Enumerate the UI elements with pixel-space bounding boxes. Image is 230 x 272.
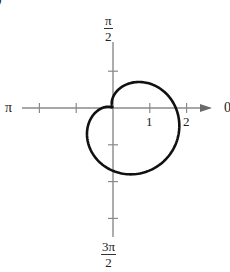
fraction-denominator: 2 xyxy=(105,255,112,269)
cardioid-curve xyxy=(87,82,179,174)
axis-arrow-icon xyxy=(200,104,212,112)
corner-fragment-label: ) xyxy=(0,0,2,6)
angle-label-pi: π xyxy=(5,101,12,115)
fraction-numerator: 3π xyxy=(101,240,116,254)
angle-label-3pi-over-2: 3π 2 xyxy=(101,240,116,269)
fraction-denominator: 2 xyxy=(105,29,112,43)
polar-plot-svg xyxy=(0,0,230,272)
fraction-numerator: π xyxy=(104,14,113,28)
angle-label-zero: 0 xyxy=(224,101,230,115)
tick-label-1: 1 xyxy=(146,115,153,128)
tick-label-2: 2 xyxy=(183,115,190,128)
angle-label-pi-over-2: π 2 xyxy=(104,14,113,43)
